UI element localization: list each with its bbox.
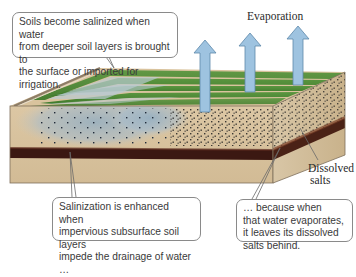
evaporation-label: Evaporation <box>247 10 303 22</box>
callout-impervious-layers: Salinization is enhanced when impervious… <box>52 197 201 241</box>
callout-evaporation-salts: … because when that water evaporates, it… <box>236 199 353 242</box>
callout-line: impervious subsurface soil layers <box>59 226 194 251</box>
callout-line: salts behind. <box>243 240 346 253</box>
callout-line: impede the drainage of water … <box>59 251 194 276</box>
callout-line: the surface or imported for irrigation. <box>19 66 171 91</box>
dissolved-salts-label-line2: salts <box>308 174 354 186</box>
dissolved-salts-label: Dissolved salts <box>308 162 354 186</box>
dissolved-salts-region <box>170 108 273 146</box>
callout-salinization-cause: Soils become salinized when water from d… <box>12 12 178 58</box>
callout-line: … because when <box>243 202 346 215</box>
callout-line: it leaves its dissolved <box>243 227 346 240</box>
callout-line: that water evaporates, <box>243 215 346 228</box>
callout-line: from deeper soil layers is brought to <box>19 41 171 66</box>
callout-line: Salinization is enhanced when <box>59 201 194 226</box>
callout-line: Soils become salinized when water <box>19 16 171 41</box>
dissolved-salts-label-line1: Dissolved <box>308 162 354 174</box>
